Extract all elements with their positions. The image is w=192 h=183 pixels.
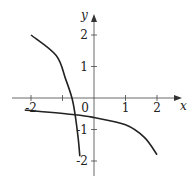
x-tick-label: -2 xyxy=(25,101,37,115)
y-tick-label: 1 xyxy=(80,60,88,74)
x-axis-label: x xyxy=(180,99,187,113)
y-axis-arrow xyxy=(91,14,97,22)
x-tick-label: 2 xyxy=(153,101,161,115)
y-axis-label: y xyxy=(80,8,88,22)
chart: -2012-2-112 x y xyxy=(0,0,192,183)
series xyxy=(25,35,157,156)
series-line-flat-curve xyxy=(25,110,157,155)
x-tick-label: 0 xyxy=(81,101,89,115)
x-tick-label: 1 xyxy=(122,101,130,115)
y-tick-label: -2 xyxy=(76,154,88,168)
series-line-steep-curve xyxy=(31,35,80,156)
axes xyxy=(12,14,182,176)
y-tick-label: 2 xyxy=(80,28,88,42)
